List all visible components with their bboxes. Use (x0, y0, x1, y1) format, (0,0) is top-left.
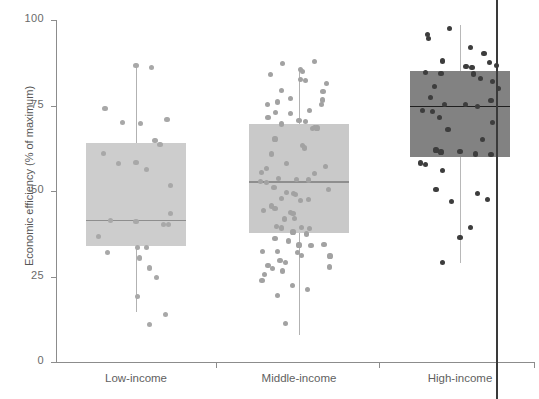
data-point (304, 231, 309, 236)
data-point (264, 166, 269, 171)
data-point (296, 242, 301, 247)
data-point (426, 36, 431, 41)
data-point (433, 187, 438, 192)
data-point (105, 250, 110, 255)
data-point (475, 191, 480, 196)
data-point (133, 160, 138, 165)
data-point (290, 283, 295, 288)
data-point (307, 108, 312, 113)
data-point (275, 99, 280, 104)
x-axis-line (56, 362, 534, 363)
data-point (420, 108, 425, 113)
data-point (290, 229, 295, 234)
data-point (481, 51, 486, 56)
data-point (133, 219, 138, 224)
data-point (264, 180, 269, 185)
data-point (260, 249, 265, 254)
data-point (294, 177, 299, 182)
data-point (168, 211, 173, 216)
data-point (272, 136, 277, 141)
data-point (272, 206, 277, 211)
data-point (447, 26, 452, 31)
data-point (320, 89, 325, 94)
box-high-income (410, 71, 510, 157)
data-point (423, 162, 428, 167)
data-point (259, 170, 264, 175)
data-point (133, 63, 138, 68)
y-tick-label: 75 (0, 98, 44, 110)
data-point (300, 69, 305, 74)
data-point (440, 58, 445, 63)
data-point (279, 225, 284, 230)
data-point (468, 225, 473, 230)
data-point (284, 161, 289, 166)
data-point (475, 104, 480, 109)
data-point (302, 145, 307, 150)
x-tick-mark (216, 362, 217, 368)
data-point (144, 245, 149, 250)
y-tick-label: 50 (0, 183, 44, 195)
data-point (262, 272, 267, 277)
data-point (432, 84, 437, 89)
data-point (269, 151, 274, 156)
x-tick-mark (379, 362, 380, 368)
data-point (438, 149, 443, 154)
data-point (120, 120, 125, 125)
data-point (469, 65, 474, 70)
data-point (164, 117, 169, 122)
data-point (438, 71, 443, 76)
plot-area (56, 20, 534, 362)
data-point (288, 111, 293, 116)
data-point (108, 218, 113, 223)
data-point (259, 278, 264, 283)
data-point (463, 64, 468, 69)
data-point (282, 216, 287, 221)
chart-figure: Economic efficiency (% of maximum) 02550… (0, 0, 539, 399)
data-point (327, 264, 332, 269)
data-point (271, 185, 276, 190)
data-point (144, 167, 149, 172)
data-point (283, 321, 288, 326)
data-point (149, 65, 154, 70)
data-point (487, 60, 492, 65)
median-high-income (410, 106, 510, 107)
data-point (306, 177, 311, 182)
data-point (265, 115, 270, 120)
y-tick-label: 100 (0, 12, 44, 24)
data-point (327, 253, 332, 258)
x-tick-label-low-income: Low-income (66, 372, 206, 384)
data-point (284, 190, 289, 195)
y-tick-mark (51, 362, 56, 363)
data-point (457, 235, 462, 240)
data-point (102, 106, 107, 111)
data-point (270, 266, 275, 271)
x-tick-label-high-income: High-income (390, 372, 530, 384)
data-point (440, 168, 445, 173)
data-point (258, 179, 263, 184)
data-point (299, 253, 304, 258)
data-point (268, 72, 273, 77)
data-point (279, 121, 284, 126)
data-point (488, 98, 493, 103)
data-point (277, 258, 282, 263)
data-point (147, 265, 152, 270)
data-point (488, 152, 493, 157)
data-point (296, 118, 301, 123)
data-point (485, 197, 490, 202)
data-point (440, 260, 445, 265)
data-point (457, 149, 462, 154)
y-tick-label: 0 (0, 354, 44, 366)
box-middle-income (249, 124, 349, 233)
data-point (312, 171, 317, 176)
data-point (275, 293, 280, 298)
data-point (326, 187, 331, 192)
data-point (286, 238, 291, 243)
data-point (473, 151, 478, 156)
data-point (445, 127, 450, 132)
data-point (321, 242, 326, 247)
data-point (468, 45, 473, 50)
data-point (147, 322, 152, 327)
data-point (319, 102, 324, 107)
data-point (449, 199, 454, 204)
data-point (280, 268, 285, 273)
